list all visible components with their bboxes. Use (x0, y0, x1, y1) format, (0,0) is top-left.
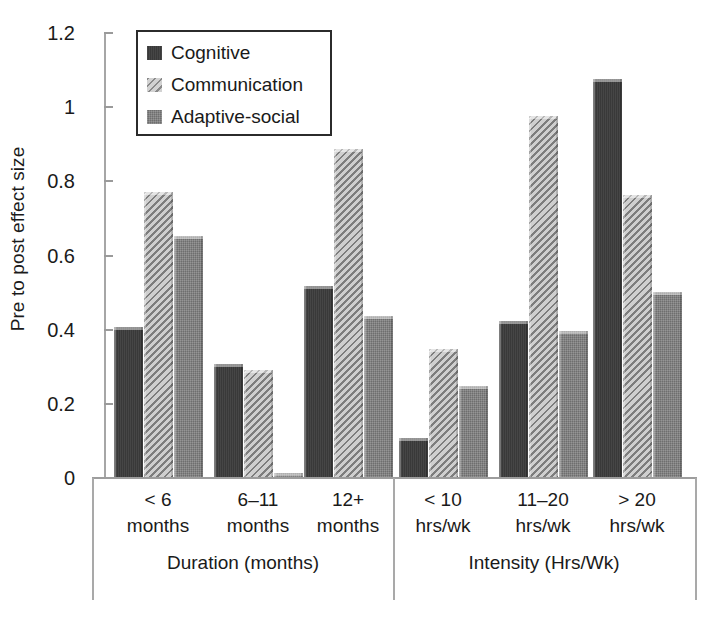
bar-left-edge (364, 316, 366, 479)
bar-right-edge (650, 195, 652, 479)
bar-right-edge (426, 438, 428, 479)
bar-left-edge (559, 331, 561, 479)
legend-label-communication: Communication (171, 75, 303, 95)
bar-left-edge (244, 370, 246, 479)
legend-item: Cognitive (147, 37, 330, 69)
bar (244, 370, 273, 479)
bar-left-edge (529, 116, 531, 479)
bar-right-edge (620, 79, 622, 480)
bar-left-edge (334, 149, 336, 479)
bar-right-edge (361, 149, 363, 479)
bar-right-edge (331, 286, 333, 479)
bar-fill (334, 149, 363, 479)
bar-top-highlight (399, 438, 428, 441)
bar (214, 364, 243, 479)
bar-fill (399, 438, 428, 479)
bar-fill (114, 327, 143, 479)
bar-fill (364, 316, 393, 479)
bar (334, 149, 363, 479)
bar-top-highlight (174, 236, 203, 239)
legend-label-cognitive: Cognitive (171, 43, 250, 63)
bar-right-edge (526, 321, 528, 479)
bar (653, 292, 682, 479)
bar-right-edge (456, 349, 458, 479)
bar-right-edge (680, 292, 682, 479)
bar-right-edge (201, 236, 203, 479)
bar-top-highlight (334, 149, 363, 152)
bar (459, 386, 488, 479)
bar-fill (529, 116, 558, 479)
bar (304, 286, 333, 479)
bar-top-highlight (114, 327, 143, 330)
bar-top-highlight (499, 321, 528, 324)
x-axis-category-label: > 20hrs/wk (567, 487, 707, 539)
bar-fill (429, 349, 458, 479)
panel-title: Duration (months) (103, 550, 383, 576)
bar (174, 236, 203, 479)
bar-top-highlight (529, 116, 558, 119)
bar-right-edge (141, 327, 143, 479)
bar-fill (144, 192, 173, 479)
bar-left-edge (653, 292, 655, 479)
bar-right-edge (171, 192, 173, 479)
bar-left-edge (593, 79, 595, 480)
bar-fill (244, 370, 273, 479)
bar-fill (304, 286, 333, 479)
legend-item: Adaptive-social (147, 101, 330, 133)
bar-left-edge (499, 321, 501, 479)
y-axis-tick-label: 1 (5, 94, 75, 120)
bar-right-edge (586, 331, 588, 479)
legend: Cognitive Communication Adaptive-social (136, 30, 332, 136)
bar-left-edge (399, 438, 401, 479)
bar (114, 327, 143, 479)
panel-title: Intensity (Hrs/Wk) (404, 550, 684, 576)
legend-label-adaptive-social: Adaptive-social (171, 107, 300, 127)
category-label-line2: hrs/wk (567, 513, 707, 539)
y-axis-tick-label: 0.2 (5, 391, 75, 417)
legend-swatch-communication-icon (147, 78, 162, 92)
bar-right-edge (556, 116, 558, 479)
bar (593, 79, 622, 480)
bar-top-highlight (214, 364, 243, 367)
panel-divider (695, 478, 697, 600)
bar-fill (623, 195, 652, 479)
bar (399, 438, 428, 479)
bar (144, 192, 173, 479)
bar-left-edge (214, 364, 216, 479)
y-axis-tick-label: 0.6 (5, 243, 75, 269)
bar-right-edge (271, 370, 273, 479)
bar-top-highlight (623, 195, 652, 198)
legend-item: Communication (147, 69, 330, 101)
bar (364, 316, 393, 479)
bar-fill (499, 321, 528, 479)
bar-right-edge (486, 386, 488, 479)
bar-top-highlight (304, 286, 333, 289)
y-axis-tick-label: 0.4 (5, 317, 75, 343)
bar-left-edge (623, 195, 625, 479)
bar-left-edge (429, 349, 431, 479)
bar-top-highlight (244, 370, 273, 373)
bar-chart-figure: Pre to post effect size 00.20.40.60.811.… (0, 0, 715, 621)
bar-left-edge (459, 386, 461, 479)
category-label-line1: > 20 (567, 487, 707, 513)
bar-top-highlight (559, 331, 588, 334)
bar-fill (214, 364, 243, 479)
bar-fill (653, 292, 682, 479)
y-axis-tick-label: 0 (5, 465, 75, 491)
bar-left-edge (114, 327, 116, 479)
y-axis-tick-label: 0.8 (5, 168, 75, 194)
bar-top-highlight (364, 316, 393, 319)
legend-swatch-adaptive-social-icon (147, 110, 162, 124)
bar-right-edge (391, 316, 393, 479)
bar (429, 349, 458, 479)
bar-fill (459, 386, 488, 479)
bar-left-edge (174, 236, 176, 479)
bar-top-highlight (653, 292, 682, 295)
panel-divider (92, 478, 94, 600)
bar-top-highlight (274, 473, 303, 476)
legend-swatch-cognitive-icon (147, 46, 162, 60)
bar (529, 116, 558, 479)
bar-top-highlight (429, 349, 458, 352)
bar-left-edge (304, 286, 306, 479)
y-axis-tick-label: 1.2 (5, 20, 75, 46)
